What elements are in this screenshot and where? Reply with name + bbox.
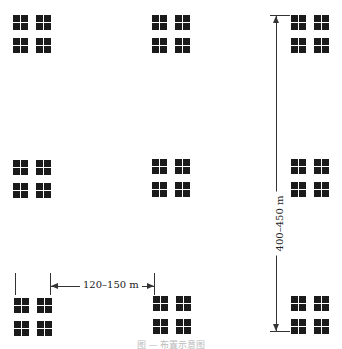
- arrow-right-icon: [147, 283, 154, 289]
- building-cluster: [291, 15, 337, 61]
- figure-caption: 图 — 布置示意图: [0, 338, 342, 349]
- building-cluster: [13, 15, 59, 61]
- horizontal-spacing-label: 120–150 m: [80, 279, 142, 290]
- extension-line: [270, 331, 290, 332]
- arrow-left-icon: [51, 283, 58, 289]
- building-cluster: [152, 159, 198, 205]
- extension-line: [154, 273, 155, 295]
- building-cluster: [291, 159, 337, 205]
- arrow-up-icon: [273, 16, 279, 23]
- arrow-down-icon: [273, 324, 279, 331]
- vertical-spacing-label: 400–450 m: [274, 192, 285, 256]
- building-cluster: [152, 15, 198, 61]
- dimension-line-vertical: [276, 16, 277, 331]
- building-cluster: [13, 160, 59, 206]
- building-cluster: [153, 296, 199, 342]
- building-cluster: [291, 296, 337, 342]
- extension-line: [15, 273, 16, 295]
